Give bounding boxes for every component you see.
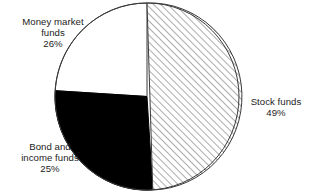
pie-label-money-market-funds: Money market funds 26% [6, 16, 100, 50]
pie-slice-stock-funds [147, 3, 242, 190]
pie-label-money-market-funds-line1: Money market [6, 16, 100, 27]
pie-label-bond-and-income-funds-line2: income funds [2, 152, 98, 163]
pie-label-stock-funds: Stock funds 49% [243, 96, 309, 118]
pie-label-bond-and-income-funds: Bond and income funds 25% [2, 141, 98, 175]
pie-label-money-market-funds-line2: funds [6, 27, 100, 38]
pie-label-bond-and-income-funds-line1: Bond and [2, 141, 98, 152]
pie-chart-figure: Money market funds 26% Bond and income f… [0, 0, 311, 194]
pie-label-bond-and-income-funds-value: 25% [2, 163, 98, 174]
pie-label-stock-funds-value: 49% [243, 107, 309, 118]
pie-label-money-market-funds-value: 26% [6, 38, 100, 49]
pie-label-stock-funds-line1: Stock funds [243, 96, 309, 107]
